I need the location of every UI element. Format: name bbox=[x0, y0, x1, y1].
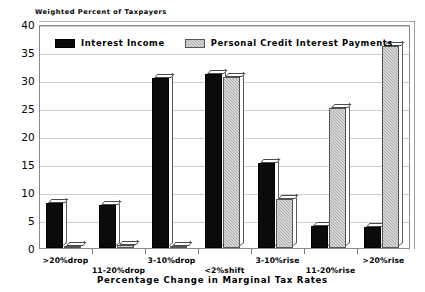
bar-front-face bbox=[311, 226, 328, 248]
plot-area bbox=[39, 25, 410, 249]
bar-front-face bbox=[364, 227, 381, 248]
bar-top-face bbox=[172, 242, 193, 246]
bar-front-face bbox=[258, 163, 275, 248]
bar-interest-income bbox=[152, 78, 169, 248]
bar-front-face bbox=[329, 108, 346, 248]
bar-side-face bbox=[346, 103, 350, 246]
bar-front-face bbox=[170, 246, 187, 248]
legend-swatch-credit-interest-payments bbox=[185, 39, 205, 48]
bar-interest-income bbox=[46, 203, 63, 248]
bar-group bbox=[146, 26, 199, 248]
legend-swatch-interest-income bbox=[55, 39, 75, 48]
bar-group bbox=[93, 26, 146, 248]
bar-interest-income bbox=[205, 74, 222, 248]
x-axis-category-label: 11-20%rise bbox=[306, 266, 355, 275]
y-axis-tick-label: 15 bbox=[5, 160, 35, 171]
chart-legend: Interest IncomePersonal Credit Interest … bbox=[55, 38, 393, 48]
bar-front-face bbox=[117, 245, 134, 248]
bar-side-face bbox=[169, 73, 173, 246]
x-axis-category-label: 11-20%drop bbox=[92, 266, 145, 275]
x-axis-tick bbox=[145, 249, 146, 254]
bar-interest-income bbox=[364, 227, 381, 248]
bar-front-face bbox=[276, 199, 293, 248]
bar-group bbox=[305, 26, 358, 248]
bars-layer bbox=[40, 26, 409, 248]
legend-entry: Interest Income bbox=[55, 38, 165, 48]
legend-entry: Personal Credit Interest Payments bbox=[185, 38, 393, 48]
bar-chart-figure: Weighted Percent of Taxpayers 0510152025… bbox=[0, 0, 425, 292]
bar-top-face bbox=[331, 104, 352, 108]
bar-front-face bbox=[152, 78, 169, 248]
y-axis-tick-label: 20 bbox=[5, 132, 35, 143]
bar-group bbox=[199, 26, 252, 248]
y-axis-tick-label: 30 bbox=[5, 76, 35, 87]
bar-side-face bbox=[399, 41, 403, 246]
bar-front-face bbox=[64, 246, 81, 248]
bar-side-face bbox=[116, 200, 120, 246]
bar-top-face bbox=[66, 242, 87, 246]
y-axis-tick-label: 10 bbox=[5, 188, 35, 199]
bar-front-face bbox=[205, 74, 222, 248]
bar-credit-interest-payments bbox=[276, 199, 293, 248]
bar-group bbox=[40, 26, 93, 248]
bar-side-face bbox=[240, 71, 244, 246]
x-axis-category-label: >20%rise bbox=[363, 256, 405, 265]
bar-credit-interest-payments bbox=[64, 246, 81, 248]
y-axis-tick-label: 25 bbox=[5, 104, 35, 115]
x-axis-category-label: >20%drop bbox=[43, 256, 89, 265]
bar-credit-interest-payments bbox=[223, 77, 240, 248]
bar-side-face bbox=[63, 198, 67, 246]
y-axis-tick-label: 5 bbox=[5, 216, 35, 227]
bar-group bbox=[252, 26, 305, 248]
bar-top-face bbox=[260, 159, 281, 163]
x-axis-category-label: 3-10%rise bbox=[256, 256, 300, 265]
y-axis-tick-label: 40 bbox=[5, 20, 35, 31]
bar-top-face bbox=[101, 201, 122, 205]
bar-credit-interest-payments bbox=[117, 245, 134, 248]
x-axis-category-label: <2%shift bbox=[205, 266, 245, 275]
bar-front-face bbox=[382, 46, 399, 248]
y-axis-tick-labels: 0510152025303540 bbox=[2, 25, 35, 249]
bar-front-face bbox=[46, 203, 63, 248]
y-axis-tick-label: 35 bbox=[5, 48, 35, 59]
bar-interest-income bbox=[258, 163, 275, 248]
bar-top-face bbox=[225, 73, 246, 77]
bar-group bbox=[358, 26, 411, 248]
bar-side-face bbox=[293, 194, 297, 246]
y-axis-tick-label: 0 bbox=[5, 244, 35, 255]
x-axis-tick bbox=[251, 249, 252, 254]
bar-credit-interest-payments bbox=[382, 46, 399, 248]
y-axis-title: Weighted Percent of Taxpayers bbox=[35, 8, 167, 16]
legend-label: Personal Credit Interest Payments bbox=[211, 38, 393, 48]
bar-top-face bbox=[119, 241, 140, 245]
bar-interest-income bbox=[311, 226, 328, 248]
bar-front-face bbox=[223, 77, 240, 248]
x-axis-tick bbox=[92, 249, 93, 254]
x-axis-title: Percentage Change in Marginal Tax Rates bbox=[0, 275, 425, 285]
x-axis-tick bbox=[198, 249, 199, 254]
bar-interest-income bbox=[99, 205, 116, 248]
bar-credit-interest-payments bbox=[329, 108, 346, 248]
bar-credit-interest-payments bbox=[170, 246, 187, 248]
x-axis-tick bbox=[357, 249, 358, 254]
x-axis-tick bbox=[304, 249, 305, 254]
legend-label: Interest Income bbox=[81, 38, 165, 48]
bar-front-face bbox=[99, 205, 116, 248]
x-axis-category-label: 3-10%drop bbox=[148, 256, 196, 265]
